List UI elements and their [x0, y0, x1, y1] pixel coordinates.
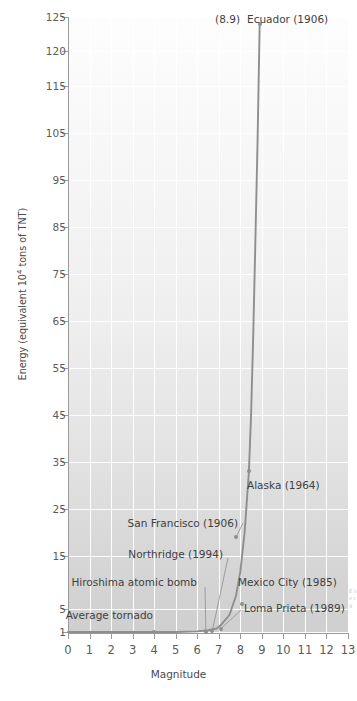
annotation-ecuador-note: (8.9) [215, 14, 240, 25]
x-tick-mark [262, 633, 263, 639]
x-tick-mark [111, 633, 112, 639]
y-tick-label: 75 [22, 269, 66, 279]
x-tick-mark [305, 633, 306, 639]
y-tick-label: 105 [22, 128, 66, 138]
y-tick-label: 65 [22, 316, 66, 326]
gridline-horizontal [68, 509, 348, 510]
annotation-mexico-city: Mexico City (1985) [238, 577, 337, 588]
gridline-horizontal [68, 180, 348, 181]
y-tick-label: 120 [22, 46, 66, 56]
y-tick-label: 5 [22, 604, 66, 614]
gridline-horizontal [68, 368, 348, 369]
y-tick-label: 85 [22, 222, 66, 232]
y-tick-label: 45 [22, 410, 66, 420]
gridline-horizontal [68, 51, 348, 52]
gridline-vertical [219, 17, 220, 633]
y-axis-title: Energy (equivalent 104 tons of TNT) [16, 144, 28, 444]
x-tick-mark [68, 633, 69, 639]
x-tick-mark [176, 633, 177, 639]
data-point [219, 627, 223, 631]
annotation-ecuador: Ecuador (1906) [247, 14, 328, 25]
y-tick-label: 35 [22, 457, 66, 467]
annotation-san-francisco-label: San Francisco (1906) [128, 517, 238, 529]
y-axis-line [68, 17, 69, 633]
y-axis-title-suffix: tons of TNT) [17, 208, 28, 270]
earthquake-energy-chart: 15152535455565758595105115120125 0123456… [0, 0, 357, 701]
x-tick-mark [219, 633, 220, 639]
gridline-horizontal [68, 133, 348, 134]
gridline-vertical [154, 17, 155, 633]
gridline-vertical [176, 17, 177, 633]
gridline-vertical [111, 17, 112, 633]
y-tick-label: 55 [22, 363, 66, 373]
gridline-horizontal [68, 321, 348, 322]
y-tick-label: 95 [22, 175, 66, 185]
y-tick-label: 125 [22, 12, 66, 22]
annotation-ecuador-note-text: (8.9) [215, 13, 240, 25]
edge-caption: E n e r g [349, 588, 357, 674]
annotation-average-tornado: Average tornado [66, 610, 153, 621]
annotation-northridge: Northridge (1994) [128, 549, 223, 560]
y-tick-label: 1 [22, 627, 66, 637]
gridline-vertical [90, 17, 91, 633]
gridline-vertical [262, 17, 263, 633]
plot-area [68, 17, 348, 633]
x-tick-mark [133, 633, 134, 639]
gridline-horizontal [68, 274, 348, 275]
gridline-horizontal [68, 86, 348, 87]
y-tick-label: 15 [22, 551, 66, 561]
x-axis-title-text: Magnitude [151, 668, 207, 680]
gridline-horizontal [68, 227, 348, 228]
annotation-alaska: Alaska (1964) [247, 480, 320, 491]
gridline-horizontal [68, 415, 348, 416]
x-tick-mark [90, 633, 91, 639]
y-axis-title-exponent: 4 [16, 270, 24, 274]
annotation-hiroshima: Hiroshima atomic bomb [71, 577, 197, 588]
annotation-loma-prieta-label: Loma Prieta (1989) [244, 602, 345, 614]
x-tick-mark [326, 633, 327, 639]
annotation-hiroshima-label: Hiroshima atomic bomb [71, 576, 197, 588]
annotation-loma-prieta: Loma Prieta (1989) [244, 603, 345, 614]
y-tick-label: 115 [22, 81, 66, 91]
x-tick-mark [197, 633, 198, 639]
data-point [204, 630, 208, 634]
annotation-northridge-label: Northridge (1994) [128, 548, 223, 560]
x-axis-title: Magnitude [0, 668, 357, 680]
gridlines [68, 17, 348, 633]
annotation-alaska-label: Alaska (1964) [247, 479, 320, 491]
annotation-san-francisco: San Francisco (1906) [128, 518, 238, 529]
y-tick-label: 25 [22, 504, 66, 514]
gridline-vertical [240, 17, 241, 633]
annotation-average-tornado-label: Average tornado [66, 609, 153, 621]
gridline-vertical [133, 17, 134, 633]
gridline-horizontal [68, 462, 348, 463]
gridline-vertical [197, 17, 198, 633]
gridline-vertical [283, 17, 284, 633]
annotation-ecuador-label: Ecuador (1906) [247, 13, 328, 25]
y-axis-title-prefix: Energy (equivalent 10 [17, 274, 28, 380]
x-tick-mark [283, 633, 284, 639]
x-tick-mark [240, 633, 241, 639]
annotation-mexico-city-label: Mexico City (1985) [238, 576, 337, 588]
gridline-vertical [305, 17, 306, 633]
gridline-vertical [326, 17, 327, 633]
